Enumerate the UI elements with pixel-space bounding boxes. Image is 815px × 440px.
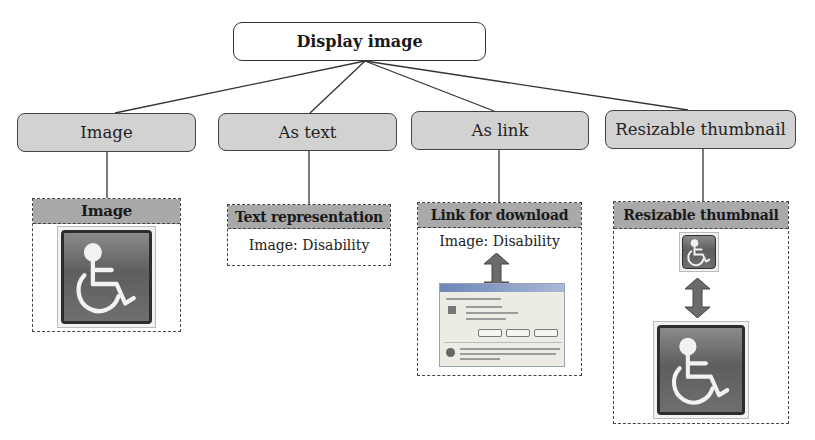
category-label: As link [472,121,529,140]
panel-image: Image [32,198,181,332]
root-node-label: Display image [296,32,422,51]
panel-resizable-thumbnail: Resizable thumbnail [613,201,789,424]
category-node-as-text: As text [218,113,397,151]
double-arrow-vertical-icon[interactable] [684,278,711,318]
panel-text-representation: Text representation Image: Disability [227,204,391,266]
category-node-resizable-thumbnail: Resizable thumbnail [605,110,796,149]
category-node-as-link: As link [411,111,589,150]
wheelchair-accessibility-icon [57,226,156,328]
wheelchair-accessibility-icon-small[interactable] [679,232,719,272]
panel-header: Text representation [228,205,390,229]
download-link-text[interactable]: Image: Disability [418,233,581,249]
panel-header: Link for download [418,203,581,228]
panel-link-for-download: Link for download Image: Disability [417,202,582,376]
category-label: Image [80,123,132,142]
category-node-image: Image [17,113,196,152]
panel-header: Resizable thumbnail [614,202,788,229]
category-label: As text [279,123,337,142]
category-label: Resizable thumbnail [615,120,785,139]
panel-header: Image [33,199,180,224]
alt-text-value: Image: Disability [228,237,390,253]
wheelchair-accessibility-icon-large [653,321,749,419]
root-node-display-image: Display image [233,22,486,61]
file-download-dialog-screenshot [439,283,565,367]
